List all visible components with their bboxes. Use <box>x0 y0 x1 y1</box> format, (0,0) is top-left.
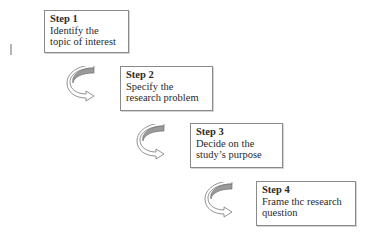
step-4-title: Step 4 <box>262 184 351 196</box>
step-2-box: Step 2 Specify the research problem <box>120 66 213 111</box>
curved-arrow-icon <box>204 182 234 218</box>
step-1-title: Step 1 <box>50 13 124 25</box>
curved-arrow-icon <box>136 124 166 160</box>
curved-arrow-icon <box>66 66 96 102</box>
step-1-box: Step 1 Identify the topic of interest <box>44 10 129 53</box>
step-3-box: Step 3 Decide on the study’s purpose <box>190 123 283 168</box>
step-1-line-1: Identify the <box>50 25 124 37</box>
step-4-line-1: Frame thc research <box>262 196 351 208</box>
step-1-line-2: topic of interest <box>50 36 124 48</box>
step-2-title: Step 2 <box>126 69 208 81</box>
step-4-line-2: question <box>262 207 351 219</box>
step-3-title: Step 3 <box>196 126 278 138</box>
step-4-box: Step 4 Frame thc research question <box>256 181 356 226</box>
step-2-line-1: Specify the <box>126 81 208 93</box>
step-3-line-2: study’s purpose <box>196 149 278 161</box>
scan-mark <box>10 44 12 55</box>
step-2-line-2: research problem <box>126 92 208 104</box>
step-3-line-1: Decide on the <box>196 138 278 150</box>
